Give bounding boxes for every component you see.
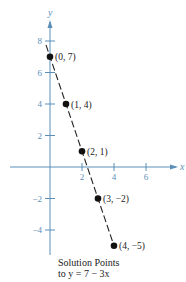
- x-tick-label: 6: [144, 172, 149, 182]
- data-point: [79, 148, 86, 155]
- x-tick-label: 2: [80, 172, 85, 182]
- y-tick-label: 4: [38, 99, 43, 109]
- x-axis-arrow-icon: [170, 165, 178, 170]
- point-label: (1, 4): [71, 100, 92, 111]
- y-axis-arrow-icon: [48, 20, 53, 28]
- point-label: (2, 1): [87, 147, 108, 158]
- chart: xy2468642−2−4(0, 7)(1, 4)(2, 1)(3, −2)(4…: [0, 0, 186, 282]
- point-label: (0, 7): [55, 52, 76, 63]
- x-axis-label: x: [179, 161, 185, 172]
- chart-caption: Solution Points to y = 7 − 3x: [58, 257, 119, 279]
- y-tick-label: −2: [32, 194, 42, 204]
- y-tick-label: 2: [38, 131, 43, 141]
- point-label: (4, −5): [119, 241, 145, 252]
- data-point: [47, 53, 54, 60]
- y-axis-label: y: [47, 7, 53, 18]
- solution-line: [46, 45, 114, 246]
- y-tick-label: 8: [38, 36, 43, 46]
- point-label: (3, −2): [103, 194, 129, 205]
- caption-line-2: to y = 7 − 3x: [58, 268, 119, 279]
- y-tick-label: −4: [32, 225, 42, 235]
- caption-line-1: Solution Points: [58, 257, 119, 268]
- y-tick-label: 6: [38, 68, 43, 78]
- data-point: [95, 195, 102, 202]
- x-tick-label: 4: [112, 172, 117, 182]
- data-point: [63, 101, 70, 108]
- data-point: [111, 242, 118, 249]
